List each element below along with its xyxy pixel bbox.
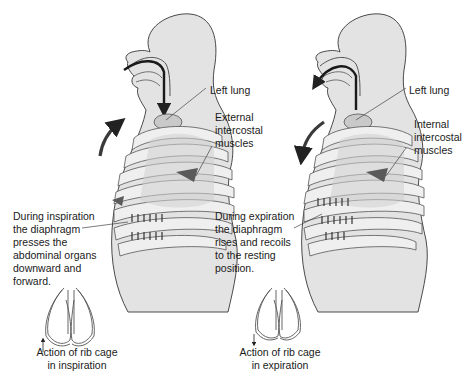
chest-down-arrow	[302, 122, 324, 156]
inspiration-diaphragm-label: During inspiration the diaphragm presses…	[13, 210, 96, 288]
chest-up-arrow	[100, 124, 118, 156]
external-intercostal-label: External intercostal muscles	[215, 111, 263, 150]
expiration-diaphragm-label: During expiration the diaphragm rises an…	[215, 210, 294, 275]
rib-cage-caption-inspiration: Action of rib cage in inspiration	[22, 346, 132, 372]
anatomy-artwork	[0, 0, 476, 375]
internal-intercostal-label: Internal intercostal muscles	[414, 118, 462, 157]
rib-cage-icon-expiration	[256, 288, 301, 340]
expiration-figure	[254, 14, 427, 344]
inspiration-figure	[43, 14, 237, 352]
rib-cage-icon-inspiration	[46, 288, 95, 346]
left-lung-label-expiration: Left lung	[409, 84, 449, 97]
left-lung-label-inspiration: Left lung	[210, 84, 250, 97]
rib-cage-caption-expiration: Action of rib cage in expiration	[225, 346, 335, 372]
breathing-mechanics-diagram: Left lung External intercostal muscles D…	[0, 0, 476, 375]
